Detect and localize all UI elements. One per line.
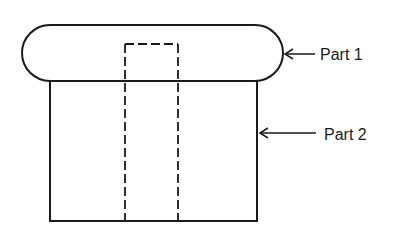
part-2-label: Part 2 xyxy=(324,126,367,143)
part-1-cap xyxy=(22,25,283,81)
part-2-leader-arrow xyxy=(260,128,316,138)
assembly-diagram: Part 1 Part 2 xyxy=(0,0,396,226)
part-2-body xyxy=(49,81,258,221)
hidden-bore-dashed xyxy=(125,44,178,221)
part-1-label: Part 1 xyxy=(320,46,363,63)
part-1-leader-arrow xyxy=(285,49,315,59)
